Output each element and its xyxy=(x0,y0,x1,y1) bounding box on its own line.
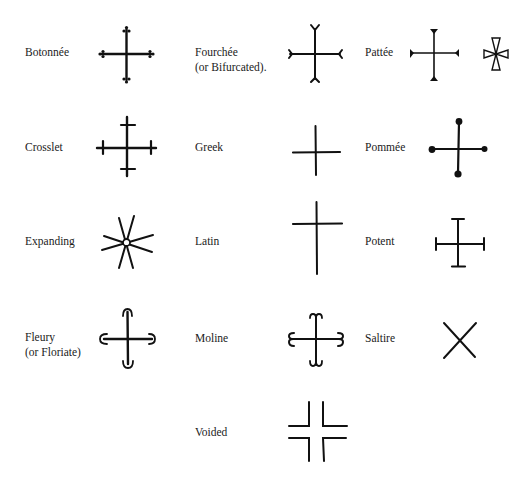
botonnee-cross-icon xyxy=(98,26,154,84)
pommee-cross-icon xyxy=(429,118,488,177)
voided-cross-icon xyxy=(289,402,347,461)
latin-cross-icon xyxy=(293,202,342,274)
pattee-cross-icon xyxy=(410,29,459,81)
crosslet-cross-icon xyxy=(97,117,156,176)
pattee-small-cross-icon xyxy=(484,38,508,70)
moline-cross-icon xyxy=(289,314,343,366)
cross-figures xyxy=(0,0,525,481)
greek-cross-icon xyxy=(293,126,340,175)
fleury-cross-icon xyxy=(100,309,155,368)
expanding-cross-icon xyxy=(102,216,153,268)
potent-cross-icon xyxy=(436,219,484,267)
fourchee-cross-icon xyxy=(289,25,342,82)
saltire-cross-icon xyxy=(444,323,476,358)
